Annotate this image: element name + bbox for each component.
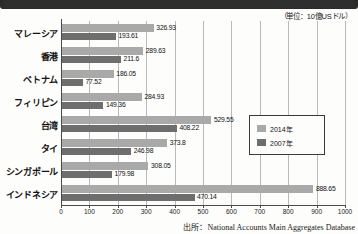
bar-value-label: 284.93 [144,93,164,100]
bar-2014 [61,162,148,169]
x-axis-tick-label: 300 [141,208,152,215]
x-axis-tick-label: 400 [169,208,180,215]
category-label: 香港 [41,50,58,63]
bar-2007 [61,125,177,132]
bar-2007 [61,102,103,109]
category-label: インドネシア [6,188,58,201]
bar-2014 [61,139,167,146]
bar-value-label: 888.65 [316,185,336,192]
legend-swatch-y2014 [257,125,266,132]
gridline [260,21,261,205]
bar-value-label: 211.6 [124,55,140,62]
bar-value-label: 77.52 [86,78,102,85]
bar-2007 [61,171,112,178]
bar-value-label: 373.8 [170,139,186,146]
bar-value-label: 179.98 [115,170,135,177]
bar-2007 [61,79,83,86]
bar-value-label: 246.98 [134,147,154,154]
x-axis-tick-label: 700 [254,208,265,215]
x-axis-tick-label: 0 [59,208,63,215]
title-bar-strip [4,0,354,8]
x-axis-tick-label: 600 [226,208,237,215]
bar-value-label: 149.36 [106,101,126,108]
legend-label: 2007年 [270,138,293,148]
unit-note: （単位：10億USドル） [280,10,352,21]
category-label: タイ [41,142,58,155]
y-axis-line [61,19,62,207]
x-axis-tick-label: 800 [283,208,294,215]
gridline [203,21,204,205]
x-axis-tick-label: 1000 [338,208,352,215]
x-axis-tick-label: 100 [84,208,95,215]
bar-value-label: 529.55 [214,116,234,123]
gridline [231,21,232,205]
bar-value-label: 326.93 [156,24,176,31]
gridline [345,21,346,205]
bar-value-label: 289.63 [146,47,166,54]
category-label: マレーシア [14,27,58,40]
category-label: シンガポール [6,165,58,178]
bar-value-label: 470.14 [197,193,217,200]
bar-2014 [61,93,142,100]
bar-value-label: 186.05 [116,70,136,77]
window-title-bar [0,0,358,9]
source-note: 出所：National Accounts Main Aggregates Dat… [183,221,355,232]
plot-area: 326.93193.61289.63211.6186.0577.52284.93… [61,21,345,205]
gridline [317,21,318,205]
bar-2014 [61,185,313,192]
category-axis-labels: マレーシア香港ベトナムフィリピン台湾タイシンガポールインドネシア [0,21,58,205]
bar-2007 [61,33,116,40]
bar-2007 [61,148,131,155]
chart-legend: 2014年2007年 [249,115,325,155]
gridline [288,21,289,205]
x-axis-tick-label: 200 [112,208,123,215]
category-label: ベトナム [23,73,58,86]
bar-2014 [61,24,154,31]
bar-2007 [61,194,195,201]
category-label: フィリピン [14,96,58,109]
bar-value-label: 193.61 [118,32,138,39]
bar-2014 [61,47,143,54]
x-axis-tick-label: 900 [311,208,322,215]
legend-label: 2014年 [270,124,293,134]
category-label: 台湾 [41,119,58,132]
gridline [175,21,176,205]
x-axis-tick-label: 500 [198,208,209,215]
bar-value-label: 408.22 [179,124,199,131]
legend-swatch-y2007 [257,139,266,146]
bar-value-label: 308.05 [151,162,171,169]
bar-2014 [61,116,211,123]
bar-2014 [61,70,114,77]
bar-2007 [61,56,121,63]
